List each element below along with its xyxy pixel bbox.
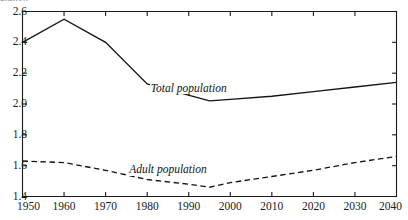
series-paths xyxy=(23,19,397,187)
y-tick-label: 1.8 xyxy=(13,129,27,141)
series-label-1: Total population xyxy=(150,83,228,95)
axis-frame xyxy=(23,12,397,197)
series-line-2 xyxy=(23,156,397,187)
y-tick-label: 2.0 xyxy=(13,98,27,110)
x-tick-label: 2000 xyxy=(219,201,242,213)
x-tick-label: 1960 xyxy=(53,201,76,213)
x-tick-label: 2010 xyxy=(260,201,283,213)
tick-marks xyxy=(23,12,397,197)
y-tick-label: 2.2 xyxy=(13,67,27,79)
y-tick-label: 2.6 xyxy=(13,6,27,18)
series-label-2: Adult population xyxy=(128,164,208,176)
y-tick-label: 1.6 xyxy=(13,160,27,172)
x-tick-label: 2020 xyxy=(302,201,325,213)
chart-plot-area xyxy=(0,0,408,220)
x-tick-label: 1950 xyxy=(17,201,40,213)
population-line-chart-figure: ulation 1.41.61.82.02.22.42.6 1950196019… xyxy=(0,0,408,220)
x-tick-label: 1980 xyxy=(136,201,159,213)
x-tick-label: 2040 xyxy=(379,201,402,213)
x-tick-label: 1990 xyxy=(177,201,200,213)
x-tick-label: 2030 xyxy=(343,201,366,213)
y-tick-label: 2.4 xyxy=(13,37,27,49)
x-tick-label: 1970 xyxy=(94,201,117,213)
